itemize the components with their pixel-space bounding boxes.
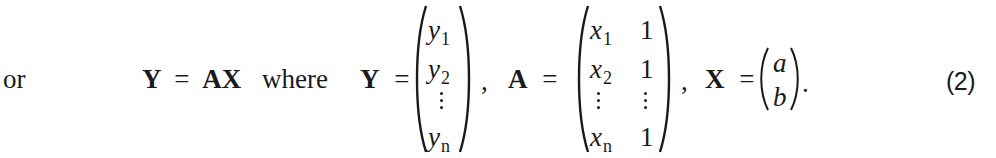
- a-def-equals: =: [542, 64, 557, 94]
- where-word: where: [262, 66, 328, 93]
- a-cell-1-1: x1: [590, 17, 612, 44]
- x-left-paren-icon: [758, 46, 770, 112]
- main-lhs: Y: [142, 64, 162, 94]
- a-cell-2-2: 1: [640, 56, 654, 83]
- x-def-equals: =: [739, 64, 754, 94]
- a-left-paren-icon: [574, 4, 590, 154]
- x-def-label: X =: [705, 66, 754, 93]
- lead-word-or: or: [3, 66, 26, 93]
- y-def-name: Y: [360, 64, 380, 94]
- y-entry-1: y1: [428, 17, 450, 44]
- a-cell-n-1: xn: [590, 124, 612, 151]
- x-entry-a: a: [773, 50, 787, 77]
- equation-number: (2): [946, 67, 975, 96]
- x-def-period: .: [802, 70, 809, 97]
- a-cell-2-1: x2: [590, 56, 612, 83]
- x-right-paren-icon: [789, 46, 801, 112]
- a-def-name: A: [508, 64, 528, 94]
- x-entry-b: b: [773, 84, 787, 111]
- a-def-label: A =: [508, 66, 557, 93]
- a-def-comma: ,: [681, 68, 688, 95]
- y-entry-2: y2: [428, 56, 450, 83]
- y-entry-n: yn: [428, 124, 450, 151]
- y-def-label: Y =: [360, 66, 409, 93]
- y-left-paren-icon: [412, 4, 428, 154]
- x-def-name: X: [705, 64, 725, 94]
- y-def-equals: =: [394, 64, 409, 94]
- a-vdots-col2-icon: [644, 92, 648, 113]
- a-vdots-col1-icon: [597, 92, 601, 113]
- main-equals: =: [174, 64, 189, 94]
- main-equation: Y = AX: [142, 66, 241, 93]
- y-vdots-icon: [440, 92, 444, 113]
- a-cell-1-2: 1: [640, 17, 654, 44]
- y-def-comma: ,: [481, 68, 488, 95]
- main-rhs: AX: [202, 64, 241, 94]
- a-cell-n-2: 1: [640, 124, 654, 151]
- a-right-paren-icon: [658, 4, 674, 154]
- y-right-paren-icon: [458, 4, 474, 154]
